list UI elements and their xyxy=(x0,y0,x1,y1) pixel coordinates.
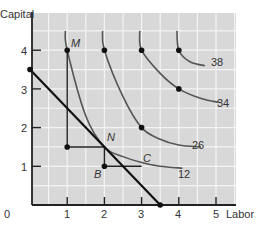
y-tick-2: 2 xyxy=(21,122,27,134)
y-tick-3: 3 xyxy=(21,84,27,96)
data-point xyxy=(27,67,33,73)
isoquant-label-26: 26 xyxy=(192,139,204,151)
y-tick-4: 4 xyxy=(21,45,27,57)
data-point-b xyxy=(102,164,108,170)
data-point xyxy=(157,202,163,208)
data-point xyxy=(176,47,182,53)
x-tick-4: 4 xyxy=(175,208,181,220)
data-point xyxy=(176,86,182,92)
point-label-m: M xyxy=(71,37,81,49)
isoquant-chart: Capital Labor 0 1 2 3 4 5 4 3 2 1 M N B … xyxy=(0,0,266,229)
point-label-n: N xyxy=(107,131,115,143)
isoquant-label-12: 12 xyxy=(178,168,190,180)
x-tick-1: 1 xyxy=(64,208,70,220)
isoquant-label-38: 38 xyxy=(211,56,223,68)
data-point xyxy=(64,144,70,150)
point-label-b: B xyxy=(94,168,101,180)
data-point xyxy=(139,47,145,53)
point-label-c: C xyxy=(143,152,151,164)
x-tick-5: 5 xyxy=(213,208,219,220)
origin-label: 0 xyxy=(4,208,10,220)
data-point xyxy=(102,47,108,53)
isoquant-label-34: 34 xyxy=(217,97,229,109)
x-axis-label: Labor xyxy=(226,208,254,220)
x-tick-2: 2 xyxy=(101,208,107,220)
data-point xyxy=(139,125,145,131)
y-tick-1: 1 xyxy=(21,161,27,173)
y-axis-label: Capital xyxy=(0,8,34,20)
data-point-m xyxy=(64,47,70,53)
x-tick-3: 3 xyxy=(138,208,144,220)
